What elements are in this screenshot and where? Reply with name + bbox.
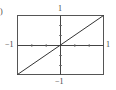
x-min-label: −1 xyxy=(5,41,14,49)
y-min-label: −1 xyxy=(55,78,64,86)
x-max-label: 1 xyxy=(106,41,110,49)
y-max-label: 1 xyxy=(58,5,62,13)
